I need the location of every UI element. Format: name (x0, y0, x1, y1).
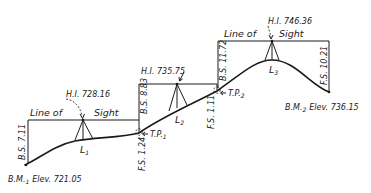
foresight-label-3: F.S. 10.21 (320, 46, 329, 85)
foresight-label-2: F.S. 1.11 (207, 95, 216, 129)
tp-label-2: T.P.2 (228, 89, 245, 99)
bm-label-2: B.M.2Elev. 736.15 (285, 103, 359, 113)
backsight-label-3: B.S. 11.72 (219, 40, 228, 81)
tp-label-1: T.P.1 (150, 130, 167, 140)
hi-label-2: H.I. 735.75 (141, 67, 185, 76)
line-of-sight-label-left-3: Line of (224, 28, 258, 39)
hi-label-1: H.I. 728.16 (66, 90, 110, 99)
hi-arrowhead-1 (80, 114, 85, 119)
backsight-label-1: B.S. 7.11 (18, 124, 27, 160)
line-of-sight-label-right-3: Sight (279, 28, 305, 39)
turning-point-1: T.P.1 F.S. 1.24 (136, 129, 167, 171)
foresight-label-1: F.S. 1.24 (138, 137, 147, 171)
line-of-sight-label-right-1: Sight (94, 107, 120, 118)
backsight-label-2: B.S. 8.83 (140, 78, 149, 114)
hi-label-3: H.I. 746.36 (268, 17, 312, 26)
instrument-label-l2: L2 (175, 114, 184, 126)
instrument-label-l3: L3 (269, 64, 278, 76)
level-instrument-l3-icon (265, 40, 279, 60)
level-instrument-l1-icon (75, 119, 93, 140)
benchmark-2: B.M.2Elev. 736.15 (285, 91, 359, 113)
bm-label-1: B.M.1Elev. 721.05 (8, 175, 82, 185)
leveling-diagram: H.I. 728.16 Line of Sight B.S. 7.11 L1 T… (0, 0, 371, 193)
hi-arrow-1 (66, 99, 82, 116)
line-of-sight-label-left-1: Line of (30, 107, 64, 118)
benchmark-1: B.M.1Elev. 721.05 (8, 164, 82, 185)
setup-l1: H.I. 728.16 Line of Sight B.S. 7.11 L1 (18, 90, 139, 163)
instrument-label-l1: L1 (80, 144, 89, 156)
setup-l3: H.I. 746.36 Line of Sight B.S. 11.72 F.S… (218, 17, 329, 91)
